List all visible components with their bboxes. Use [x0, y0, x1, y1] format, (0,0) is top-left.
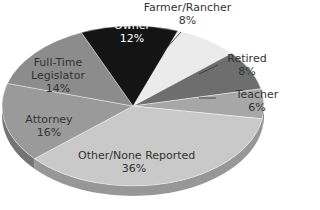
label-farmer-rancher: Farmer/Rancher 8% — [140, 1, 235, 27]
label-other-none-reported: Other/None Reported 36% — [78, 149, 190, 175]
label-teacher: Teacher 6% — [234, 88, 280, 114]
label-full-time-legislator: Full-Time Legislator 14% — [30, 56, 86, 95]
label-retired: Retired 8% — [222, 52, 272, 78]
label-attorney: Attorney 16% — [24, 113, 74, 139]
